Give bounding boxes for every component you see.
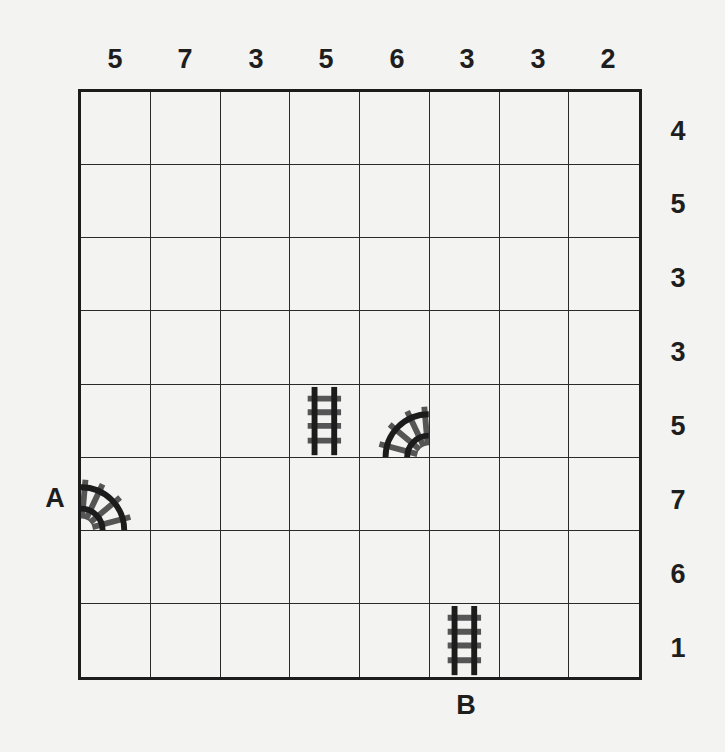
grid-cell-r4-c3[interactable] — [221, 311, 291, 384]
grid-cell-r2-c8[interactable] — [569, 165, 639, 238]
grid-cell-r2-c5[interactable] — [360, 165, 430, 238]
column-clue-5: 6 — [362, 46, 432, 73]
column-clue-8: 2 — [573, 46, 643, 73]
row-clue-4: 3 — [660, 339, 696, 366]
grid-cell-r4-c5[interactable] — [360, 311, 430, 384]
grid-cell-r7-c3[interactable] — [221, 531, 291, 604]
column-clue-2: 7 — [150, 46, 220, 73]
grid-cell-r1-c1[interactable] — [81, 92, 151, 165]
grid-cell-r5-c7[interactable] — [500, 385, 570, 458]
grid-cell-r7-c2[interactable] — [151, 531, 221, 604]
grid-cell-r4-c2[interactable] — [151, 311, 221, 384]
grid-cell-r7-c8[interactable] — [569, 531, 639, 604]
straight-track-icon — [290, 385, 359, 457]
grid-cell-r2-c6[interactable] — [430, 165, 500, 238]
grid-cell-r3-c6[interactable] — [430, 238, 500, 311]
row-clue-7: 6 — [660, 561, 696, 588]
grid-cell-r3-c3[interactable] — [221, 238, 291, 311]
grid-cell-r8-c5[interactable] — [360, 604, 430, 677]
grid-cell-r1-c4[interactable] — [290, 92, 360, 165]
grid-cell-r8-c7[interactable] — [500, 604, 570, 677]
grid-cell-r6-c8[interactable] — [569, 458, 639, 531]
grid-cell-r3-c2[interactable] — [151, 238, 221, 311]
grid-cell-r1-c3[interactable] — [221, 92, 291, 165]
grid-cell-r8-c1[interactable] — [81, 604, 151, 677]
grid-cell-r3-c4[interactable] — [290, 238, 360, 311]
column-clue-1: 5 — [80, 46, 150, 73]
grid-cell-r6-c5[interactable] — [360, 458, 430, 531]
row-clue-1: 4 — [660, 118, 696, 145]
grid-cell-r8-c4[interactable] — [290, 604, 360, 677]
row-clue-2: 5 — [660, 191, 696, 218]
grid-cell-r7-c7[interactable] — [500, 531, 570, 604]
grid-cell-r6-c1[interactable] — [81, 458, 151, 531]
grid-cell-r1-c7[interactable] — [500, 92, 570, 165]
grid-cell-r6-c4[interactable] — [290, 458, 360, 531]
column-clue-6: 3 — [432, 46, 502, 73]
grid-cell-r8-c6[interactable] — [430, 604, 500, 677]
grid-cell-r1-c2[interactable] — [151, 92, 221, 165]
grid-cell-r2-c4[interactable] — [290, 165, 360, 238]
grid-cell-r4-c6[interactable] — [430, 311, 500, 384]
grid-cell-r6-c7[interactable] — [500, 458, 570, 531]
grid-cell-r1-c6[interactable] — [430, 92, 500, 165]
grid-cell-r3-c8[interactable] — [569, 238, 639, 311]
curved-track-icon — [81, 458, 150, 530]
curved-track-icon — [360, 385, 429, 457]
grid-cell-r3-c1[interactable] — [81, 238, 151, 311]
grid-cell-r5-c6[interactable] — [430, 385, 500, 458]
grid-cell-r2-c1[interactable] — [81, 165, 151, 238]
grid-cell-r8-c8[interactable] — [569, 604, 639, 677]
grid-cell-r5-c4[interactable] — [290, 385, 360, 458]
row-clue-6: 7 — [660, 487, 696, 514]
grid-cell-r6-c6[interactable] — [430, 458, 500, 531]
grid-cell-r7-c6[interactable] — [430, 531, 500, 604]
row-clue-5: 5 — [660, 413, 696, 440]
grid-cell-r4-c7[interactable] — [500, 311, 570, 384]
grid-cell-r5-c1[interactable] — [81, 385, 151, 458]
grid-cell-r4-c8[interactable] — [569, 311, 639, 384]
grid-cell-r7-c5[interactable] — [360, 531, 430, 604]
grid-cell-r3-c5[interactable] — [360, 238, 430, 311]
grid-cell-r2-c2[interactable] — [151, 165, 221, 238]
grid-cell-r3-c7[interactable] — [500, 238, 570, 311]
grid-cell-r7-c4[interactable] — [290, 531, 360, 604]
grid-cell-r4-c4[interactable] — [290, 311, 360, 384]
column-clue-3: 3 — [221, 46, 291, 73]
grid-cell-r5-c8[interactable] — [569, 385, 639, 458]
column-clue-7: 3 — [503, 46, 573, 73]
grid-cell-r1-c5[interactable] — [360, 92, 430, 165]
row-clue-3: 3 — [660, 265, 696, 292]
grid-cell-r7-c1[interactable] — [81, 531, 151, 604]
grid-cell-r6-c3[interactable] — [221, 458, 291, 531]
grid-cell-r6-c2[interactable] — [151, 458, 221, 531]
grid-cell-r5-c3[interactable] — [221, 385, 291, 458]
grid-cell-r5-c2[interactable] — [151, 385, 221, 458]
grid-cell-r2-c3[interactable] — [221, 165, 291, 238]
start-label-a: A — [40, 485, 70, 512]
grid-cell-r5-c5[interactable] — [360, 385, 430, 458]
end-label-b: B — [446, 692, 486, 719]
grid-cell-r2-c7[interactable] — [500, 165, 570, 238]
grid-cell-r4-c1[interactable] — [81, 311, 151, 384]
puzzle-grid — [78, 89, 642, 680]
grid-cell-r1-c8[interactable] — [569, 92, 639, 165]
row-clue-8: 1 — [660, 635, 696, 662]
grid-cell-r8-c2[interactable] — [151, 604, 221, 677]
grid-cell-r8-c3[interactable] — [221, 604, 291, 677]
column-clue-4: 5 — [291, 46, 361, 73]
straight-track-icon — [430, 604, 499, 677]
